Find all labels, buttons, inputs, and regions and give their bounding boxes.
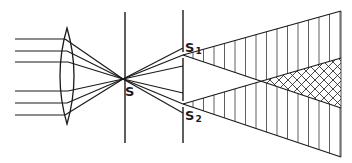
label-source-s: S: [125, 84, 134, 99]
diverging-rays: [123, 48, 183, 113]
vertical-hatching: [193, 11, 340, 156]
beam-from-s1: [183, 11, 341, 108]
converging-lens: [60, 28, 74, 124]
label-slit-s1: S1: [185, 40, 202, 56]
overlap-crosshatch: [262, 59, 341, 106]
double-slit-diagram: S S1 S2: [0, 0, 352, 163]
label-slit-s2: S2: [185, 108, 202, 124]
